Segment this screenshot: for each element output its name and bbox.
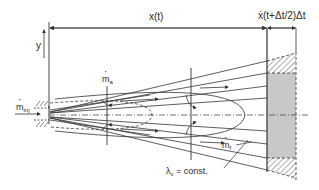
hatched-region-top [267, 53, 296, 73]
label-lambda: λv = const. [166, 167, 208, 177]
label-increment: ẋ(t+Δt/2)Δt [258, 11, 306, 21]
hatched-region-bottom [267, 158, 296, 178]
label-m-f: mf [222, 141, 231, 151]
label-m-inj: minj [16, 103, 30, 113]
label-m-a: ma [102, 75, 113, 85]
spray-diagram [0, 0, 319, 190]
dimension-lines [44, 22, 296, 108]
label-y-axis: y [36, 41, 41, 51]
control-volume [267, 28, 296, 180]
label-penetration: x(t) [149, 12, 163, 22]
spray-envelope [50, 61, 267, 170]
